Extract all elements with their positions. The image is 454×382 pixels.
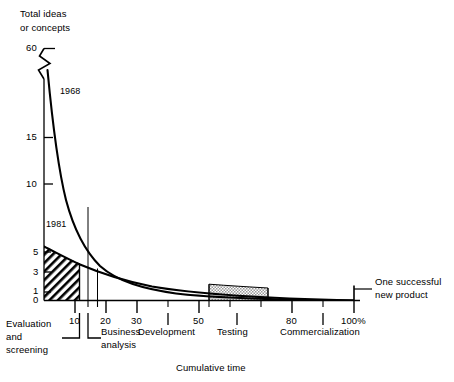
x-tick-label-50: 50 (193, 315, 204, 327)
x-tick-label-20: 20 (100, 315, 111, 327)
y-axis-title-line2: or concepts (20, 22, 70, 34)
series-curve-1968 (48, 70, 355, 301)
phase-label-business-line2: analysis (101, 339, 136, 351)
y-tick-label-60: 60 (26, 42, 37, 54)
phase-label-evaluation-line2: and (6, 331, 22, 343)
x-tick-label-80: 80 (286, 315, 297, 327)
phase-label-business-line1: Business (101, 326, 140, 338)
annotation-outcome-line2: new product (375, 289, 428, 301)
chart-figure: Total ideas or concepts 60 15 10 5 3 1 0… (0, 0, 454, 382)
y-tick-label-0: 0 (33, 294, 38, 306)
phase-label-development: Development (138, 326, 195, 338)
x-axis-title: Cumulative time (176, 362, 246, 374)
x-axis-minor-ticks (88, 301, 323, 308)
x-axis-major-ticks (75, 301, 354, 314)
phase-label-evaluation-line3: screening (6, 344, 48, 356)
x-tick-label-10: 10 (69, 315, 80, 327)
phase-label-testing: Testing (217, 326, 248, 338)
y-tick-label-10: 10 (26, 178, 37, 190)
x-tick-label-30: 30 (131, 315, 142, 327)
series-label-1981: 1981 (46, 219, 66, 231)
y-tick-label-3: 3 (33, 266, 38, 278)
y-tick-label-15: 15 (26, 131, 37, 143)
y-tick-label-5: 5 (33, 246, 38, 258)
x-tick-label-100: 100% (341, 315, 366, 327)
series-label-1968: 1968 (60, 86, 80, 98)
annotation-outcome-line1: One successful (375, 276, 441, 288)
phase-label-evaluation-line1: Evaluation (6, 318, 51, 330)
y-axis-title-line1: Total ideas (20, 8, 67, 20)
phase-label-commercialization: Commercialization (280, 326, 360, 338)
